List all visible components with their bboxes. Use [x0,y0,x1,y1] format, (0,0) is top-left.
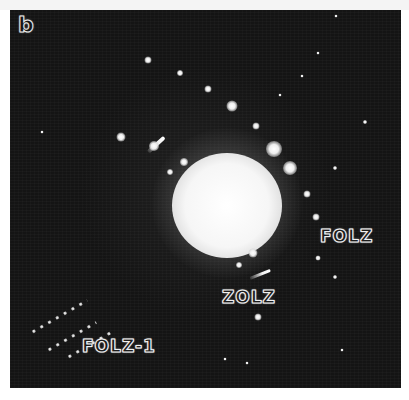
diffraction-spot [149,141,159,151]
diffraction-spot [333,275,337,279]
central-beam-spot [172,153,282,258]
diffraction-spot [266,141,282,157]
diffraction-spot [279,94,282,97]
diffraction-spot [236,262,242,268]
diffraction-spot [316,256,321,261]
diffraction-spot [249,249,258,258]
diffraction-spot [255,314,262,321]
diffraction-spot [313,214,320,221]
diffraction-pattern-panel: b FOLZ ZOLZ FOLZ-1 [10,10,401,388]
diffraction-spot [177,70,183,76]
diffraction-spot [117,133,126,142]
diffraction-spot [333,166,337,170]
diffraction-spot [224,358,227,361]
diffraction-spot [205,86,212,93]
diffraction-spot [335,15,338,18]
diffraction-spot [341,349,344,352]
panel-label: b [18,12,34,37]
diffraction-spot [301,75,304,78]
diffraction-spot [227,101,238,112]
folz-minus-1-label: FOLZ-1 [82,336,156,356]
diffraction-spot [145,57,152,64]
diffraction-spot [363,120,367,124]
folz-label: FOLZ [320,226,373,246]
diffraction-spot [304,191,311,198]
diffraction-spot [317,52,320,55]
diffraction-spot [246,362,249,365]
zolz-label: ZOLZ [222,287,276,307]
diffraction-spot [283,161,297,175]
diffraction-spot [41,131,44,134]
diffraction-spot [167,169,173,175]
diffraction-spot [180,158,188,166]
diffraction-spot [253,123,260,130]
page-top-margin [0,0,409,10]
